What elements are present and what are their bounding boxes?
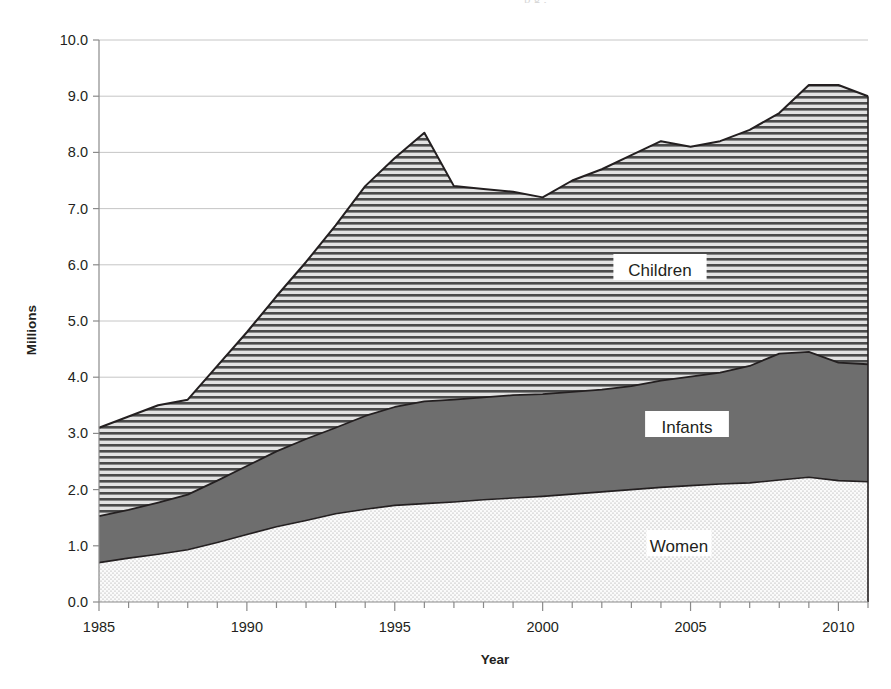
stacked-area-chart: 0.01.02.03.04.05.06.07.08.09.010.0 19851… — [0, 0, 891, 689]
x-axis-title: Year — [481, 652, 510, 667]
y-tick-label: 6.0 — [68, 257, 88, 273]
y-tick-label: 10.0 — [60, 32, 88, 48]
y-tick-label: 3.0 — [68, 425, 88, 441]
x-tick-label: 2005 — [674, 619, 706, 635]
y-axis-tick-labels: 0.01.02.03.04.05.06.07.08.09.010.0 — [60, 32, 88, 610]
x-tick-label: 2000 — [527, 619, 559, 635]
x-tick-label: 1990 — [231, 619, 263, 635]
y-tick-label: 2.0 — [68, 482, 88, 498]
y-tick-label: 8.0 — [68, 144, 88, 160]
y-axis-ticks — [93, 40, 99, 602]
women-label: Women — [650, 537, 708, 556]
y-tick-label: 1.0 — [68, 538, 88, 554]
area-series-group — [99, 85, 868, 602]
y-tick-label: 4.0 — [68, 369, 88, 385]
y-axis-title: Millions — [24, 305, 39, 355]
y-tick-label: 9.0 — [68, 88, 88, 104]
y-tick-label: 0.0 — [68, 594, 88, 610]
x-tick-label: 1985 — [83, 619, 115, 635]
x-tick-label: 2010 — [822, 619, 854, 635]
y-tick-label: 5.0 — [68, 313, 88, 329]
chart-svg: 0.01.02.03.04.05.06.07.08.09.010.0 19851… — [0, 0, 891, 689]
x-tick-label: 1995 — [379, 619, 411, 635]
x-axis-ticks — [99, 602, 868, 611]
children-label: Children — [628, 261, 691, 280]
infants-label: Infants — [661, 418, 712, 437]
figure-root: p g , 0.01.02.03.04.05.06.07.08.09.010.0… — [0, 0, 891, 689]
y-tick-label: 7.0 — [68, 201, 88, 217]
x-axis-tick-labels: 198519901995200020052010 — [83, 619, 855, 635]
